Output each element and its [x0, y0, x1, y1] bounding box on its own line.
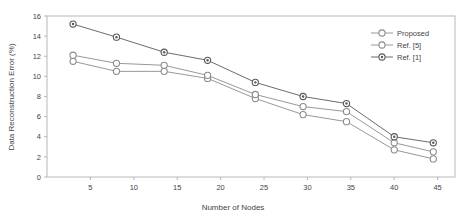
x-tick-label: 45	[433, 183, 441, 192]
series-marker	[161, 68, 167, 74]
x-tick-label: 15	[173, 183, 181, 192]
series-marker	[300, 103, 306, 109]
x-tick-label: 20	[216, 183, 224, 192]
series-marker	[343, 119, 349, 125]
series-marker	[204, 72, 210, 78]
series-marker-center	[206, 59, 208, 61]
x-tick-label: 40	[390, 183, 398, 192]
chart-legend: ProposedRef. [5]Ref. [1]	[364, 24, 454, 64]
y-tick-label: 4	[37, 132, 41, 141]
series-marker	[343, 108, 349, 114]
series-marker	[430, 156, 436, 162]
series-marker-center	[432, 142, 434, 144]
series-marker	[70, 58, 76, 64]
y-tick-label: 6	[37, 112, 41, 121]
legend-label: Ref. [1]	[397, 53, 421, 62]
series-marker-center	[345, 102, 347, 104]
series-marker	[430, 149, 436, 155]
y-axis-title: Data Reconstruction Error (%)	[7, 43, 16, 150]
y-tick-label: 2	[37, 153, 41, 162]
series-marker	[161, 62, 167, 68]
x-tick-label: 10	[130, 183, 138, 192]
series-marker-center	[393, 136, 395, 138]
series-marker-center	[115, 36, 117, 38]
x-tick-label: 25	[260, 183, 268, 192]
y-tick-label: 10	[33, 72, 41, 81]
legend-marker	[379, 42, 385, 48]
legend-label: Proposed	[397, 29, 429, 38]
legend-label: Ref. [5]	[397, 41, 421, 50]
line-chart: 0246810121416 51015202530354045 Proposed…	[0, 0, 467, 215]
series-marker	[113, 68, 119, 74]
x-tick-label: 5	[88, 183, 92, 192]
series-marker	[300, 112, 306, 118]
y-tick-label: 8	[37, 92, 41, 101]
y-tick-label: 0	[37, 173, 41, 182]
series-marker	[391, 147, 397, 153]
series-marker-center	[72, 23, 74, 25]
series-marker-center	[302, 95, 304, 97]
series-marker	[252, 91, 258, 97]
y-tick-label: 14	[33, 32, 41, 41]
series-marker	[391, 140, 397, 146]
series-marker-center	[163, 51, 165, 53]
x-tick-label: 35	[347, 183, 355, 192]
series-marker	[70, 52, 76, 58]
x-axis-title: Number of Nodes	[202, 203, 265, 212]
y-tick-label: 16	[33, 12, 41, 21]
series-marker	[113, 60, 119, 66]
x-tick-label: 30	[303, 183, 311, 192]
series-marker-center	[254, 81, 256, 83]
legend-marker-center	[381, 56, 383, 58]
y-tick-label: 12	[33, 52, 41, 61]
chart-figure: 0246810121416 51015202530354045 Proposed…	[0, 0, 467, 215]
legend-marker	[379, 30, 385, 36]
